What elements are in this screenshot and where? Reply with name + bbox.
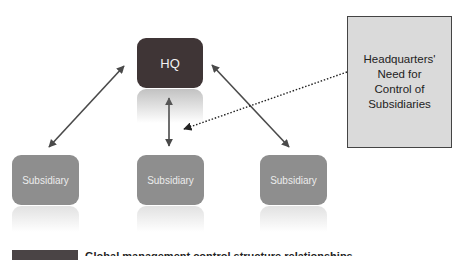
hq-label: HQ	[160, 56, 180, 71]
caption-text: Global management control structure rela…	[85, 249, 464, 256]
callout-text: Headquarters' Need for Control of Subsid…	[364, 52, 436, 112]
hq-node: HQ	[137, 38, 203, 88]
subsidiary-node-right: Subsidiary	[260, 155, 327, 205]
dotted-arrow-callout-to-center	[184, 72, 347, 129]
caption-text-clipped: Global management control structure rela…	[85, 250, 353, 256]
subsidiary-label: Subsidiary	[270, 175, 317, 186]
subsidiary-node-center: Subsidiary	[137, 155, 204, 205]
arrow-hq-left-subsidiary	[49, 66, 124, 147]
subsidiary-label: Subsidiary	[147, 175, 194, 186]
subsidiary-label: Subsidiary	[22, 175, 69, 186]
subsidiary-node-left: Subsidiary	[12, 155, 79, 205]
callout-box: Headquarters' Need for Control of Subsid…	[347, 16, 452, 148]
caption-marker	[12, 250, 78, 260]
